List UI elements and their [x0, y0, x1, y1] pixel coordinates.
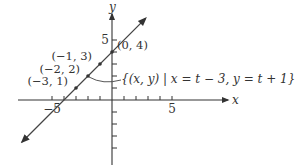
y-tick-label: 5 [101, 33, 109, 47]
x-axis-label: x [232, 93, 239, 107]
data-point [74, 86, 78, 90]
data-point [98, 62, 102, 66]
point-label: (−2, 2) [39, 62, 80, 76]
data-point [110, 50, 114, 54]
x-tick-label: −5 [43, 102, 61, 116]
annotation-leader [89, 77, 121, 82]
parametric-line-chart: xy −555 (−3, 1)(−2, 2)(−1, 3)(0, 4){(x, … [0, 0, 308, 167]
y-axis-label: y [108, 0, 116, 14]
point-label: (0, 4) [117, 38, 148, 52]
set-notation-label: {(x, y) | x = t − 3, y = t + 1} [121, 72, 295, 86]
point-label: (−1, 3) [51, 49, 92, 63]
point-label: (−3, 1) [27, 74, 68, 88]
x-tick-label: 5 [168, 102, 176, 116]
